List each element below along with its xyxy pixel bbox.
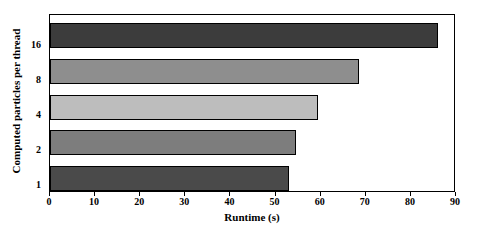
bar-1 bbox=[50, 166, 289, 191]
x-tick-label-60: 60 bbox=[315, 197, 325, 207]
x-axis-title: Runtime (s) bbox=[49, 211, 455, 223]
x-tick-label-80: 80 bbox=[405, 197, 415, 207]
x-tick-label-30: 30 bbox=[179, 197, 189, 207]
x-tick-label-70: 70 bbox=[360, 197, 370, 207]
y-tick-label-16: 16 bbox=[31, 40, 41, 50]
y-tick-label-8: 8 bbox=[36, 75, 41, 85]
x-tick-label-90: 90 bbox=[450, 197, 460, 207]
x-tick-label-20: 20 bbox=[134, 197, 144, 207]
y-tick-label-4: 4 bbox=[36, 110, 41, 120]
bar-2 bbox=[50, 130, 296, 155]
x-tick-label-50: 50 bbox=[270, 197, 280, 207]
x-tick-label-0: 0 bbox=[47, 197, 52, 207]
y-tick-label-2: 2 bbox=[36, 145, 41, 155]
x-tick-label-10: 10 bbox=[89, 197, 99, 207]
bar-4 bbox=[50, 95, 318, 120]
y-axis-tick-labels: 16 8 4 2 1 bbox=[0, 0, 45, 236]
plot-area bbox=[49, 14, 455, 192]
bar-16 bbox=[50, 23, 438, 48]
y-tick-label-1: 1 bbox=[36, 180, 41, 190]
bar-8 bbox=[50, 59, 359, 84]
x-tick-label-40: 40 bbox=[224, 197, 234, 207]
bar-chart-figure: Computed particles per thread 16 8 4 2 1… bbox=[0, 0, 482, 236]
